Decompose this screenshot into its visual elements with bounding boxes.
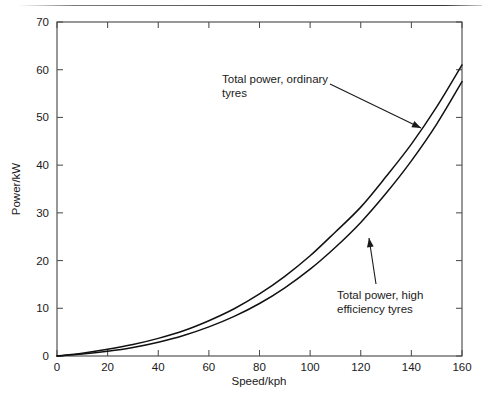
x-tick-label: 40 [152, 361, 165, 373]
x-tick-label: 80 [253, 361, 266, 373]
y-tick-label: 10 [36, 302, 49, 314]
annotation-leader-ordinary-tyres [330, 84, 421, 128]
y-tick-label: 40 [36, 159, 49, 171]
x-tick-label: 100 [301, 361, 320, 373]
annotation-label2-high-efficiency-tyres: efficiency tyres [337, 303, 413, 315]
y-tick-label: 0 [43, 350, 49, 362]
annotation-label2-ordinary-tyres: tyres [222, 87, 247, 99]
x-tick-label: 160 [452, 361, 471, 373]
annotation-label-high-efficiency-tyres: Total power, high [337, 289, 423, 301]
x-tick-label: 0 [54, 361, 60, 373]
y-axis-title: Power/kW [10, 163, 22, 216]
x-tick-labels: 020406080100120140160 [54, 361, 472, 373]
annotation-arrowhead-ordinary-tyres [411, 121, 421, 128]
figure-container: 020406080100120140160 010203040506070 To… [0, 0, 488, 396]
y-tick-label: 30 [36, 207, 49, 219]
power-vs-speed-chart: 020406080100120140160 010203040506070 To… [0, 0, 488, 396]
y-tick-label: 50 [36, 111, 49, 123]
annotation-label-ordinary-tyres: Total power, ordinary [222, 73, 328, 85]
y-tick-label: 60 [36, 64, 49, 76]
y-tick-label: 20 [36, 255, 49, 267]
x-axis-title: Speed/kph [232, 375, 287, 387]
x-tick-label: 20 [101, 361, 114, 373]
x-tick-label: 60 [202, 361, 215, 373]
annotations: Total power, ordinarytyresTotal power, h… [222, 73, 423, 315]
x-tick-label: 120 [351, 361, 370, 373]
x-tick-label: 140 [402, 361, 421, 373]
annotation-arrowhead-high-efficiency-tyres [367, 238, 374, 247]
y-tick-labels: 010203040506070 [36, 16, 49, 362]
y-tick-label: 70 [36, 16, 49, 28]
